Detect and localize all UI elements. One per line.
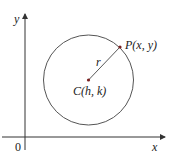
radius-line bbox=[89, 47, 121, 80]
radius-label: r bbox=[96, 56, 101, 68]
center-label: C(h, k) bbox=[73, 85, 106, 97]
y-axis-label: y bbox=[14, 13, 19, 25]
diagram-graphics bbox=[0, 0, 180, 154]
circle-diagram: y x 0 P(x, y) r C(h, k) bbox=[0, 0, 180, 154]
x-axis-label: x bbox=[152, 141, 157, 153]
point-p bbox=[118, 45, 121, 48]
center-point bbox=[87, 78, 90, 81]
point-p-label: P(x, y) bbox=[125, 39, 157, 51]
origin-label: 0 bbox=[15, 141, 21, 153]
